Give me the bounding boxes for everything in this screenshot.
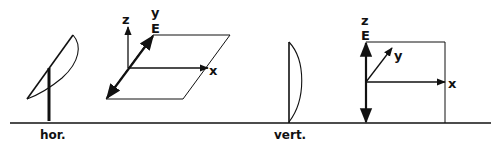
x-label: x xyxy=(448,76,457,91)
caption-vertical: vert. xyxy=(274,128,306,142)
y-axis-arrow xyxy=(366,48,392,82)
vertical-axes: z E y x xyxy=(361,13,457,123)
e-label: E xyxy=(361,28,370,43)
dish-arc xyxy=(289,42,302,122)
e-field-arrow xyxy=(107,36,153,98)
y-label: y xyxy=(394,48,403,63)
vertical-antenna xyxy=(289,42,302,123)
x-label: x xyxy=(209,63,218,78)
z-label: z xyxy=(361,13,369,28)
caption-horizontal: hor. xyxy=(40,128,66,142)
polarization-diagram: hor. z y E x vert. z E y x xyxy=(0,0,491,149)
e-label: E xyxy=(151,21,160,36)
horizontal-antenna xyxy=(27,35,78,121)
horizontal-axes: z y E x xyxy=(106,5,230,99)
y-label: y xyxy=(151,5,160,20)
z-label: z xyxy=(122,12,130,27)
